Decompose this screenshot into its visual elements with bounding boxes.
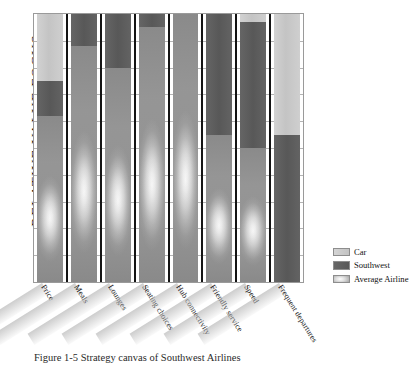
legend: CarSouthwestAverage Airline xyxy=(333,245,413,286)
bar-stack xyxy=(139,14,165,282)
legend-label: Average Airline xyxy=(354,274,408,284)
bar-stack xyxy=(37,14,63,282)
bar-column xyxy=(203,14,237,282)
legend-swatch-icon xyxy=(333,261,350,270)
figure: RELATIVE VALUE FOCUS PriceMealsLoungesSe… xyxy=(0,0,414,367)
x-tick-label: Frequent departures xyxy=(276,283,319,344)
bar-column xyxy=(68,14,102,282)
bar-average-airline xyxy=(240,148,266,282)
bar-columns xyxy=(34,14,303,282)
bar-stack xyxy=(71,14,97,282)
bar-stack xyxy=(240,14,266,282)
legend-swatch-icon xyxy=(333,275,350,284)
bar-southwest xyxy=(274,135,300,282)
legend-item: Average Airline xyxy=(333,272,413,286)
bar-column xyxy=(170,14,204,282)
figure-caption: Figure 1-5 Strategy canvas of Southwest … xyxy=(34,352,394,363)
bar-average-airline xyxy=(71,46,97,282)
bar-column xyxy=(271,14,303,282)
bar-column xyxy=(102,14,136,282)
legend-label: Southwest xyxy=(354,260,390,270)
legend-swatch-icon xyxy=(333,248,350,257)
bar-average-airline xyxy=(173,14,199,282)
plot-area xyxy=(33,13,304,283)
bar-stack xyxy=(206,14,232,282)
bar-column xyxy=(34,14,68,282)
bar-average-airline xyxy=(37,116,63,282)
legend-label: Car xyxy=(354,247,366,257)
bar-average-airline xyxy=(139,27,165,282)
bar-column xyxy=(237,14,271,282)
legend-item: Southwest xyxy=(333,259,413,273)
bar-average-airline xyxy=(206,135,232,282)
bar-stack xyxy=(105,14,131,282)
bar-column xyxy=(136,14,170,282)
bar-stack xyxy=(274,14,300,282)
bar-stack xyxy=(173,14,199,282)
legend-item: Car xyxy=(333,245,413,259)
bar-average-airline xyxy=(105,68,131,282)
